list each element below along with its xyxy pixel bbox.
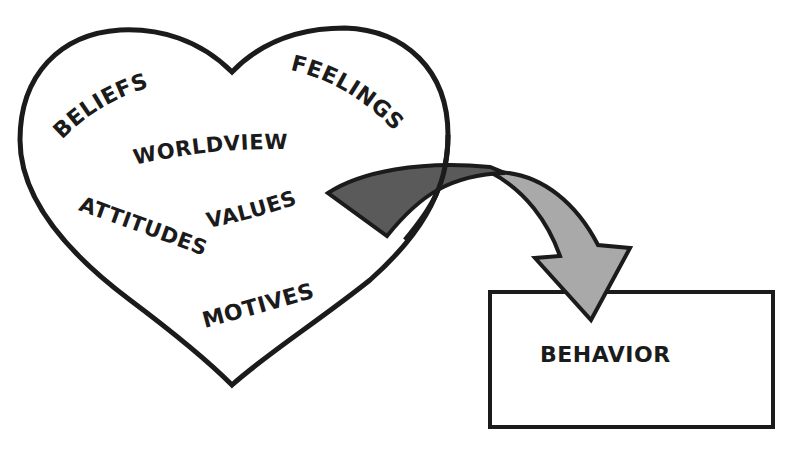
heart-to-behavior-diagram: BELIEFS FEELINGS WORLDVIEW VALUES ATTITU… [0, 0, 792, 457]
diagram-canvas: BELIEFS FEELINGS WORLDVIEW VALUES ATTITU… [0, 0, 792, 457]
behavior-label: BEHAVIOR [540, 342, 671, 367]
